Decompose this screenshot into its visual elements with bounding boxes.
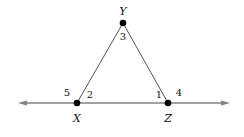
angle-label-2: 2 xyxy=(87,90,93,100)
arrow-right-icon xyxy=(221,100,230,105)
angle-label-3: 3 xyxy=(120,32,126,42)
line-xz-group xyxy=(18,100,230,105)
geometry-figure: Y X Z 5 2 3 1 4 xyxy=(0,0,244,137)
vertex-label-x: X xyxy=(73,113,81,124)
angle-label-1: 1 xyxy=(156,90,162,100)
figure-canvas xyxy=(0,0,244,137)
angle-label-5: 5 xyxy=(64,88,70,98)
segment-xy xyxy=(77,23,123,103)
angle-label-4: 4 xyxy=(176,88,182,98)
vertex-dot-z xyxy=(165,100,172,107)
arrow-left-icon xyxy=(18,100,27,105)
vertex-label-y: Y xyxy=(119,6,126,17)
vertex-dot-x xyxy=(74,100,81,107)
vertex-label-z: Z xyxy=(164,113,172,124)
vertex-dot-y xyxy=(120,20,127,27)
